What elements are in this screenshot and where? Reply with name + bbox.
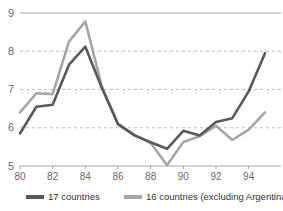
series-lines xyxy=(20,21,265,165)
legend-label-17-countries: 17 countries xyxy=(48,192,100,202)
legend-swatch-16-countries xyxy=(124,195,142,199)
y-axis-label-6: 6 xyxy=(0,122,14,133)
x-axis-label-88: 88 xyxy=(140,172,162,182)
legend-label-16-countries: 16 countries (excluding Argentina) xyxy=(146,192,283,202)
chart-svg xyxy=(0,0,283,180)
chart-legend: 17 countries 16 countries (excluding Arg… xyxy=(0,190,283,208)
y-axis-label-5: 5 xyxy=(0,161,14,172)
series-line-17-countries xyxy=(20,47,265,149)
x-axis-label-80: 80 xyxy=(9,172,31,182)
y-axis-label-7: 7 xyxy=(0,84,14,95)
x-axis-label-84: 84 xyxy=(74,172,96,182)
legend-item-16-countries[interactable]: 16 countries (excluding Argentina) xyxy=(124,192,283,202)
y-axis-label-8: 8 xyxy=(0,46,14,57)
legend-swatch-17-countries xyxy=(26,195,44,199)
x-axis-label-90: 90 xyxy=(172,172,194,182)
x-axis-label-92: 92 xyxy=(205,172,227,182)
x-axis-label-82: 82 xyxy=(42,172,64,182)
plot-area xyxy=(0,0,283,180)
y-axis-label-9: 9 xyxy=(0,8,14,19)
x-axis-label-86: 86 xyxy=(107,172,129,182)
legend-item-17-countries[interactable]: 17 countries xyxy=(26,192,100,202)
x-axis-label-94: 94 xyxy=(238,172,260,182)
chart-container: 98765 8082848688909294 17 countries 16 c… xyxy=(0,0,283,211)
